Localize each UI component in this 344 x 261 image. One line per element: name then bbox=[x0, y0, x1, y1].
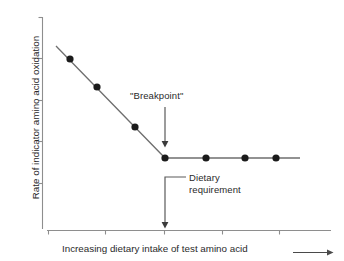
breakpoint-annotation-label: "Breakpoint" bbox=[130, 90, 183, 102]
breakpoint-arrow-head bbox=[162, 141, 169, 148]
data-point bbox=[66, 55, 73, 62]
data-point bbox=[202, 154, 209, 161]
y-axis-label: Rate of indicator amino acid oxidation bbox=[30, 13, 41, 223]
x-axis-label: Increasing dietary intake of test amino … bbox=[62, 243, 248, 254]
data-point bbox=[272, 154, 279, 161]
dietary-requirement-annotation-label: Dietary requirement bbox=[189, 172, 241, 195]
data-point bbox=[161, 154, 168, 161]
plot-canvas bbox=[0, 0, 344, 261]
dietary-arrow-head bbox=[162, 222, 169, 229]
dietary-arrow-shaft bbox=[165, 177, 186, 222]
data-point bbox=[241, 154, 248, 161]
x-axis-direction-arrow-head bbox=[327, 249, 334, 255]
data-series-line bbox=[56, 46, 300, 158]
data-point bbox=[93, 83, 100, 90]
chart-figure: Rate of indicator amino acid oxidation I… bbox=[0, 0, 344, 261]
data-point bbox=[131, 123, 138, 130]
